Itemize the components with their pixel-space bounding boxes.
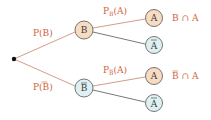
svg-text:A: A xyxy=(150,41,158,51)
result-b-and-a: B ∩ A xyxy=(172,13,199,23)
edge-B-A xyxy=(93,19,145,28)
node-A-upper: A xyxy=(146,10,163,27)
result-bbar-and-a: B ∩ A xyxy=(172,71,199,81)
svg-text:B ∩ A: B ∩ A xyxy=(172,71,199,81)
svg-text:B: B xyxy=(81,25,88,35)
node-A-lower: A xyxy=(146,68,163,85)
probability-tree: P(B) P(B) B B PB(A) PB(A) A A A A B ∩ xyxy=(0,0,211,120)
svg-text:A: A xyxy=(150,13,158,23)
svg-text:PB(A): PB(A) xyxy=(103,6,127,17)
svg-text:PB(A): PB(A) xyxy=(103,65,127,76)
edge-Bbar-Abar xyxy=(93,90,145,102)
label-pbbar-a: PB(A) xyxy=(103,65,127,76)
svg-text:B: B xyxy=(81,83,88,93)
svg-text:A: A xyxy=(150,71,158,81)
node-B: B xyxy=(75,21,93,39)
edge-Bbar-A xyxy=(93,77,145,86)
label-p-bbar: P(B) xyxy=(33,82,53,92)
label-pb-a: PB(A) xyxy=(103,6,127,17)
svg-text:P(B): P(B) xyxy=(33,82,53,92)
label-p-b: P(B) xyxy=(33,28,53,38)
edge-B-Abar xyxy=(93,32,145,44)
root-node xyxy=(12,57,16,61)
node-Bbar: B xyxy=(75,79,93,97)
node-Abar-upper: A xyxy=(146,37,163,54)
svg-text:A: A xyxy=(150,99,158,109)
node-Abar-lower: A xyxy=(146,95,163,112)
